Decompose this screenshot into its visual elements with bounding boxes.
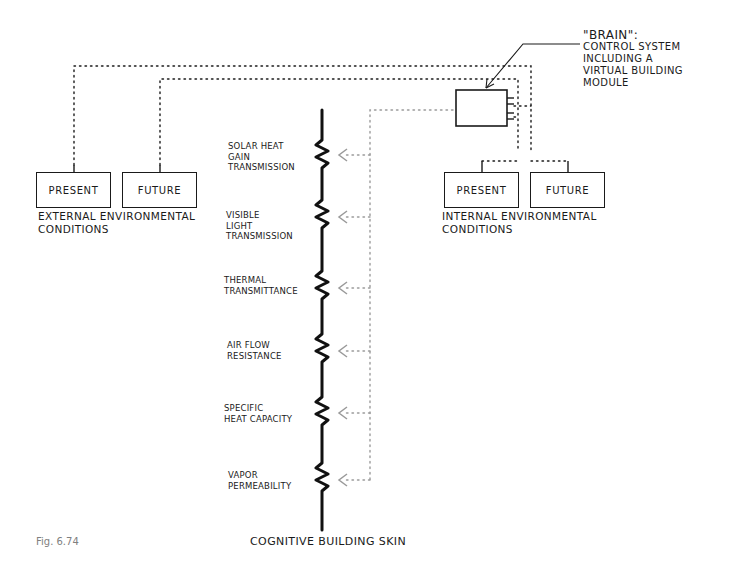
param-line: TRANSMITTANCE: [224, 286, 298, 297]
param-line: TRANSMISSION: [226, 231, 293, 242]
brain-line-3: VIRTUAL BUILDING: [583, 65, 683, 77]
param-line: TRANSMISSION: [228, 162, 295, 173]
param-line: HEAT CAPACITY: [224, 414, 292, 425]
param-thermal-transmittance: THERMAL TRANSMITTANCE: [224, 275, 298, 296]
param-line: LIGHT: [226, 221, 293, 232]
internal-caption-line2: CONDITIONS: [442, 223, 597, 236]
building-skin-line: [316, 110, 328, 530]
internal-caption: INTERNAL ENVIRONMENTAL CONDITIONS: [442, 210, 597, 236]
brain-line-4: MODULE: [583, 77, 683, 89]
brain-box: [456, 90, 507, 126]
param-specific-heat-capacity: SPECIFIC HEAT CAPACITY: [224, 403, 292, 424]
param-line: VAPOR: [228, 470, 291, 481]
param-air-flow-resistance: AIR FLOW RESISTANCE: [227, 340, 282, 361]
brain-annotation: "BRAIN": CONTROL SYSTEM INCLUDING A VIRT…: [583, 29, 683, 89]
external-caption: EXTERNAL ENVIRONMENTAL CONDITIONS: [38, 210, 195, 236]
param-line: AIR FLOW: [227, 340, 282, 351]
param-vapor-permeability: VAPOR PERMEABILITY: [228, 470, 291, 491]
internal-present-box: PRESENT: [444, 172, 519, 208]
brain-annotation-arrow: [486, 44, 580, 88]
external-present-box: PRESENT: [36, 172, 111, 208]
param-solar-heat-gain: SOLAR HEAT GAIN TRANSMISSION: [228, 141, 295, 173]
internal-future-box: FUTURE: [530, 172, 605, 208]
skin-label: COGNITIVE BUILDING SKIN: [250, 535, 406, 548]
param-line: VISIBLE: [226, 210, 293, 221]
internal-caption-line1: INTERNAL ENVIRONMENTAL: [442, 210, 597, 223]
external-future-box: FUTURE: [122, 172, 197, 208]
control-lines: [345, 110, 453, 480]
param-line: SPECIFIC: [224, 403, 292, 414]
control-arrowheads: [339, 149, 347, 486]
brain-output-stubs: [507, 98, 514, 119]
brain-line-1: CONTROL SYSTEM: [583, 41, 683, 53]
external-present-label: PRESENT: [49, 185, 99, 196]
param-line: SOLAR HEAT: [228, 141, 295, 152]
param-line: PERMEABILITY: [228, 481, 291, 492]
external-caption-line1: EXTERNAL ENVIRONMENTAL: [38, 210, 195, 223]
param-line: RESISTANCE: [227, 351, 282, 362]
brain-title: "BRAIN":: [583, 29, 683, 41]
param-line: GAIN: [228, 152, 295, 163]
external-caption-line2: CONDITIONS: [38, 223, 195, 236]
figure-label: Fig. 6.74: [36, 536, 79, 547]
param-line: THERMAL: [224, 275, 298, 286]
internal-present-label: PRESENT: [457, 185, 507, 196]
external-future-label: FUTURE: [138, 185, 181, 196]
internal-future-label: FUTURE: [546, 185, 589, 196]
brain-line-2: INCLUDING A: [583, 53, 683, 65]
param-visible-light: VISIBLE LIGHT TRANSMISSION: [226, 210, 293, 242]
